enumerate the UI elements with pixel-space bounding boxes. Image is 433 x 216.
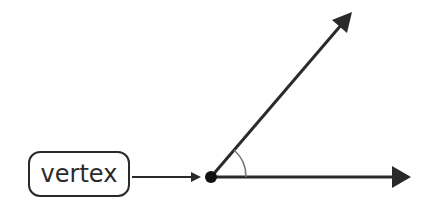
inclined-ray (211, 12, 352, 177)
arrowhead-icon (332, 12, 352, 33)
angle-arc (234, 150, 246, 177)
arrowhead-icon (191, 172, 201, 182)
vertex-label: vertex (28, 151, 130, 197)
vertex-point (205, 171, 217, 183)
pointer-arrow (132, 172, 201, 182)
vertex-label-text: vertex (41, 160, 118, 188)
arrowhead-icon (392, 166, 411, 188)
horizontal-ray (211, 166, 411, 188)
